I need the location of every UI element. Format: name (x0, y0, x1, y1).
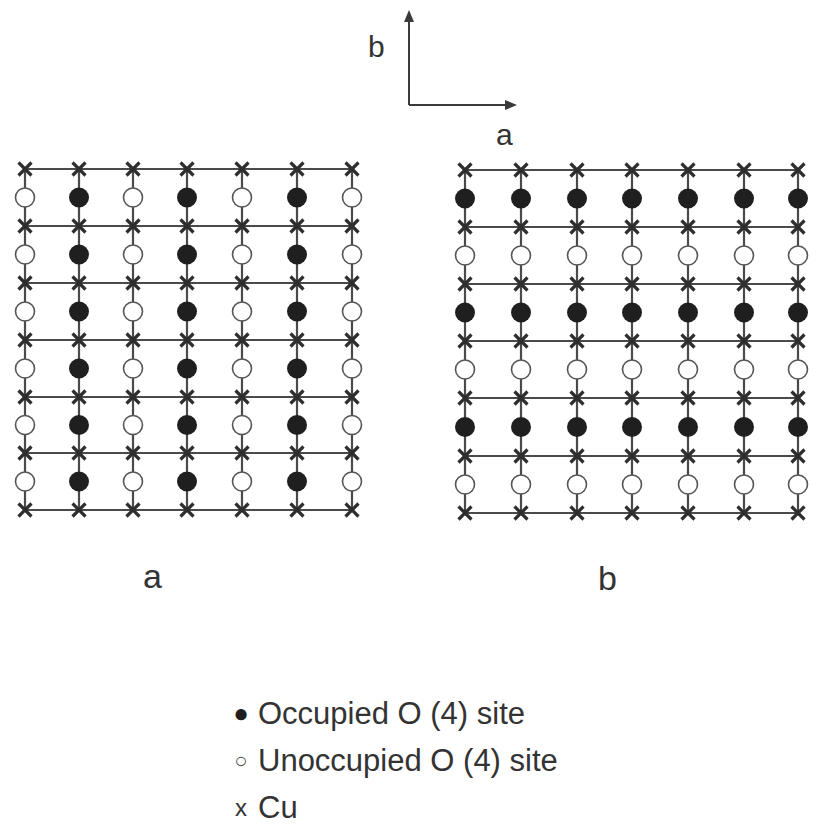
occupied-o-site-icon (177, 359, 197, 379)
panel-b-lattice (455, 164, 808, 520)
occupied-o-site-icon (511, 417, 531, 437)
legend-unoccupied-label: Unoccupied O (4) site (258, 743, 558, 779)
unoccupied-o-site-icon (512, 360, 531, 379)
unoccupied-o-site-icon (233, 359, 252, 378)
occupied-o-site-icon (287, 188, 307, 208)
occupied-o-site-icon (567, 417, 587, 437)
occupied-o-site-icon (69, 415, 89, 435)
occupied-o-site-icon (511, 303, 531, 323)
unoccupied-o-site-icon (735, 475, 754, 494)
occupied-o-site-icon (69, 188, 89, 208)
cross-icon: x (230, 794, 252, 822)
occupied-o-site-icon (287, 359, 307, 379)
occupied-o-site-icon (287, 472, 307, 492)
unoccupied-o-site-icon (16, 188, 35, 207)
unoccupied-o-site-icon (343, 245, 362, 264)
occupied-o-site-icon (455, 303, 475, 323)
occupied-o-site-icon (622, 417, 642, 437)
unoccupied-o-site-icon (623, 246, 642, 265)
legend-occupied: ● Occupied O (4) site (230, 690, 558, 737)
unoccupied-o-site-icon (568, 475, 587, 494)
occupied-o-site-icon (567, 189, 587, 209)
unoccupied-o-site-icon (343, 359, 362, 378)
occupied-o-site-icon (177, 245, 197, 265)
open-circle-icon: ○ (230, 748, 252, 774)
occupied-o-site-icon (287, 302, 307, 322)
unoccupied-o-site-icon (623, 475, 642, 494)
occupied-o-site-icon (788, 303, 808, 323)
occupied-o-site-icon (455, 189, 475, 209)
occupied-o-site-icon (678, 189, 698, 209)
occupied-o-site-icon (678, 417, 698, 437)
occupied-o-site-icon (69, 359, 89, 379)
occupied-o-site-icon (455, 417, 475, 437)
unoccupied-o-site-icon (789, 360, 808, 379)
occupied-o-site-icon (287, 415, 307, 435)
unoccupied-o-site-icon (233, 188, 252, 207)
unoccupied-o-site-icon (679, 246, 698, 265)
unoccupied-o-site-icon (124, 245, 143, 264)
unoccupied-o-site-icon (679, 360, 698, 379)
unoccupied-o-site-icon (124, 359, 143, 378)
unoccupied-o-site-icon (512, 246, 531, 265)
legend-cu-label: Cu (258, 790, 298, 826)
legend-unoccupied: ○ Unoccupied O (4) site (230, 737, 558, 784)
unoccupied-o-site-icon (124, 302, 143, 321)
panel-b-label: b (598, 559, 617, 597)
unoccupied-o-site-icon (343, 472, 362, 491)
unoccupied-o-site-icon (124, 188, 143, 207)
unoccupied-o-site-icon (16, 416, 35, 435)
occupied-o-site-icon (678, 303, 698, 323)
occupied-o-site-icon (622, 303, 642, 323)
legend-cu: x Cu (230, 784, 558, 829)
occupied-o-site-icon (177, 415, 197, 435)
occupied-o-site-icon (511, 189, 531, 209)
occupied-o-site-icon (622, 189, 642, 209)
unoccupied-o-site-icon (233, 416, 252, 435)
unoccupied-o-site-icon (124, 472, 143, 491)
filled-circle-icon: ● (230, 698, 252, 729)
unoccupied-o-site-icon (789, 246, 808, 265)
legend: ● Occupied O (4) site ○ Unoccupied O (4)… (230, 690, 558, 829)
unoccupied-o-site-icon (456, 246, 475, 265)
legend-occupied-label: Occupied O (4) site (258, 696, 525, 732)
unoccupied-o-site-icon (124, 416, 143, 435)
unoccupied-o-site-icon (456, 360, 475, 379)
panel-a-lattice (16, 163, 362, 517)
unoccupied-o-site-icon (568, 246, 587, 265)
b-axis-label: b (368, 30, 385, 63)
unoccupied-o-site-icon (343, 188, 362, 207)
occupied-o-site-icon (788, 417, 808, 437)
unoccupied-o-site-icon (233, 472, 252, 491)
unoccupied-o-site-icon (343, 302, 362, 321)
unoccupied-o-site-icon (456, 475, 475, 494)
panel-a-label: a (143, 557, 162, 595)
axis-indicator: b a (368, 12, 515, 151)
unoccupied-o-site-icon (623, 360, 642, 379)
unoccupied-o-site-icon (343, 416, 362, 435)
unoccupied-o-site-icon (735, 246, 754, 265)
occupied-o-site-icon (287, 245, 307, 265)
occupied-o-site-icon (734, 417, 754, 437)
unoccupied-o-site-icon (512, 475, 531, 494)
unoccupied-o-site-icon (16, 302, 35, 321)
occupied-o-site-icon (69, 245, 89, 265)
unoccupied-o-site-icon (568, 360, 587, 379)
a-axis-label: a (496, 118, 513, 151)
occupied-o-site-icon (788, 189, 808, 209)
occupied-o-site-icon (69, 472, 89, 492)
occupied-o-site-icon (567, 303, 587, 323)
occupied-o-site-icon (177, 302, 197, 322)
unoccupied-o-site-icon (16, 359, 35, 378)
occupied-o-site-icon (177, 188, 197, 208)
unoccupied-o-site-icon (233, 302, 252, 321)
occupied-o-site-icon (734, 303, 754, 323)
unoccupied-o-site-icon (16, 245, 35, 264)
occupied-o-site-icon (734, 189, 754, 209)
unoccupied-o-site-icon (16, 472, 35, 491)
unoccupied-o-site-icon (789, 475, 808, 494)
occupied-o-site-icon (177, 472, 197, 492)
unoccupied-o-site-icon (233, 245, 252, 264)
occupied-o-site-icon (69, 302, 89, 322)
unoccupied-o-site-icon (735, 360, 754, 379)
